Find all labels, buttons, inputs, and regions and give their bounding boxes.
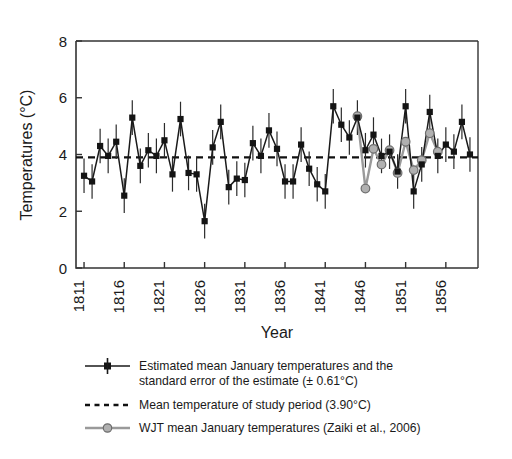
estimated-data-point [97, 143, 103, 149]
estimated-data-point [370, 132, 376, 138]
estimated-data-point [354, 115, 360, 121]
estimated-data-point [145, 147, 151, 153]
estimated-data-point [210, 144, 216, 150]
estimated-data-point [386, 149, 392, 155]
estimated-data-point [419, 161, 425, 167]
estimated-data-point [346, 134, 352, 140]
x-tick-label: 1851 [392, 280, 409, 313]
wjt-data-point [409, 166, 418, 175]
temperature-time-series-figure: Temperatures (°C) 02468 1811181618211826… [0, 0, 512, 459]
legend: Estimated mean January temperatures and … [85, 358, 421, 435]
x-tick-label: 1826 [191, 280, 208, 313]
estimated-data-point [411, 188, 417, 194]
estimated-data-point [202, 218, 208, 224]
x-tick-label: 1841 [311, 280, 328, 313]
estimated-data-point [218, 119, 224, 125]
x-tick-label: 1831 [231, 280, 248, 313]
legend-item-mean-line: Mean temperature of study period (3.90°C… [85, 398, 371, 412]
estimated-data-point [250, 140, 256, 146]
y-axis-title-group: Temperatures (°C) [18, 90, 35, 221]
y-tick-label: 6 [59, 89, 67, 106]
x-tick-label: 1811 [70, 280, 87, 312]
legend-label-estimated-line1: Estimated mean January temperatures and … [139, 359, 393, 373]
wjt-data-point [425, 129, 434, 138]
x-tick-label: 1856 [432, 280, 449, 313]
estimated-data-point [185, 170, 191, 176]
legend-label-mean-line: Mean temperature of study period (3.90°C… [139, 398, 371, 412]
estimated-data-point [330, 103, 336, 109]
wjt-data-point [361, 184, 370, 193]
estimated-data-point [121, 193, 127, 199]
legend-label-estimated-line2: standard error of the estimate (± 0.61°C… [139, 374, 358, 388]
estimated-data-point [105, 153, 111, 159]
estimated-data-point [314, 181, 320, 187]
estimated-data-point [306, 166, 312, 172]
wjt-data-point [401, 137, 410, 146]
estimated-data-point [451, 149, 457, 155]
x-tick-label: 1846 [351, 280, 368, 313]
estimated-data-point [226, 184, 232, 190]
estimated-data-point [443, 141, 449, 147]
estimated-data-point [338, 122, 344, 128]
estimated-data-point [290, 178, 296, 184]
legend-label-wjt: WJT mean January temperatures (Zaiki et … [139, 421, 421, 435]
y-axis-ticks: 02468 [59, 33, 82, 277]
estimated-data-point [177, 116, 183, 122]
x-tick-label: 1821 [150, 280, 167, 313]
estimated-data-point [459, 119, 465, 125]
estimated-data-point [234, 176, 240, 182]
estimated-data-point [194, 171, 200, 177]
legend-circle-marker-icon [103, 424, 111, 432]
estimated-data-point [89, 178, 95, 184]
estimated-data-point [161, 137, 167, 143]
estimated-data-point [322, 188, 328, 194]
estimated-data-point [298, 141, 304, 147]
estimated-data-point [435, 153, 441, 159]
y-tick-label: 2 [59, 203, 67, 220]
chart-svg: Temperatures (°C) 02468 1811181618211826… [0, 0, 512, 459]
estimated-data-point [362, 147, 368, 153]
estimated-data-point [153, 153, 159, 159]
estimated-data-point [169, 171, 175, 177]
estimated-data-point [395, 168, 401, 174]
estimated-data-point [378, 153, 384, 159]
estimated-data-point [282, 178, 288, 184]
x-axis-title: Year [261, 324, 294, 341]
legend-item-estimated-series: Estimated mean January temperatures and … [85, 358, 393, 388]
estimated-data-point [242, 177, 248, 183]
estimated-data-point [266, 127, 272, 133]
y-tick-label: 8 [59, 33, 67, 50]
wjt-data-point [377, 160, 386, 169]
estimated-data-point [113, 139, 119, 145]
estimated-data-point [137, 163, 143, 169]
estimated-data-point [427, 109, 433, 115]
wjt-data-point [369, 145, 378, 154]
x-axis-ticks: 1811181618211826183118361841184618511856 [70, 262, 449, 313]
estimated-data-point [81, 173, 87, 179]
estimated-data-point [467, 151, 473, 157]
x-tick-label: 1836 [271, 280, 288, 313]
estimated-data-point [274, 146, 280, 152]
x-tick-label: 1816 [110, 280, 127, 313]
estimated-data-point [129, 115, 135, 121]
estimated-data-point [403, 103, 409, 109]
y-axis-title: Temperatures (°C) [18, 90, 35, 221]
y-tick-label: 0 [59, 260, 67, 277]
estimated-data-point [258, 153, 264, 159]
y-tick-label: 4 [59, 146, 67, 163]
legend-item-wjt-series: WJT mean January temperatures (Zaiki et … [85, 421, 421, 435]
